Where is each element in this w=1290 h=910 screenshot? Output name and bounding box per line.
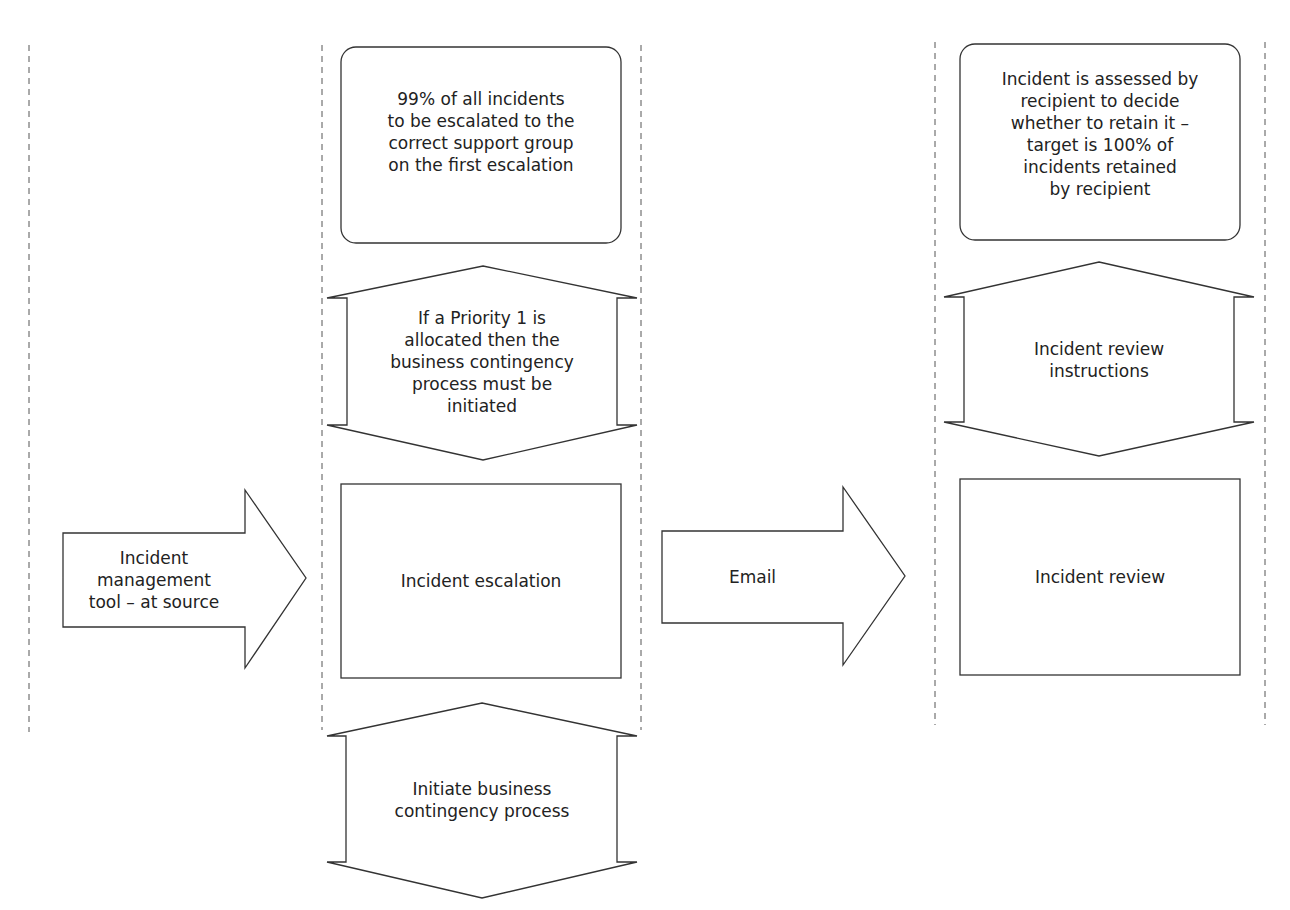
escalation-target-text: 99% of all incidents to be escalated to … <box>345 52 617 212</box>
review-control-text: Incident review instructions <box>968 298 1230 422</box>
email-arrow-label: Email <box>662 531 843 623</box>
escalation-control-text: If a Priority 1 is allocated then the bu… <box>350 300 614 424</box>
escalation-process-text: Incident escalation <box>341 484 621 678</box>
review-process-text: Incident review <box>960 479 1240 675</box>
escalation-output-text: Initiate business contingency process <box>350 738 614 862</box>
source-arrow-label: Incident management tool – at source <box>68 533 240 627</box>
review-target-text: Incident is assessed by recipient to dec… <box>964 48 1236 220</box>
